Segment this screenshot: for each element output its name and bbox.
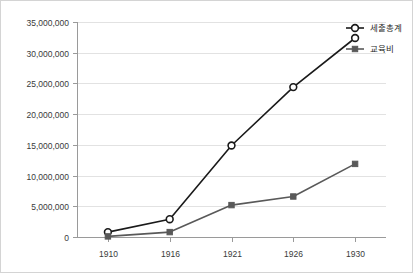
y-axis-tick-label: 30,000,000: [26, 49, 69, 59]
legend-circle-marker-icon: [352, 25, 359, 32]
data-point-marker: [167, 229, 172, 234]
data-point-marker: [291, 194, 296, 199]
data-series-group: [105, 35, 359, 240]
y-axis-tick-label: 0: [64, 233, 69, 243]
y-tick-marks-group: [73, 23, 77, 238]
data-point-marker: [105, 234, 110, 239]
legend-item[interactable]: 세출총계: [346, 23, 402, 33]
legend-square-marker-icon: [352, 46, 357, 51]
y-axis-tick-label: 5,000,000: [31, 202, 69, 212]
data-point-marker: [290, 84, 297, 91]
legend-label: 교육비: [370, 44, 394, 54]
y-axis-tick-label: 15,000,000: [26, 141, 69, 151]
y-axis-tick-label: 20,000,000: [26, 110, 69, 120]
line-chart-plot: 05,000,00010,000,00015,000,00020,000,000…: [1, 1, 413, 273]
data-point-marker: [229, 202, 234, 207]
y-axis-tick-label: 25,000,000: [26, 79, 69, 89]
y-axis-tick-labels: 05,000,00010,000,00015,000,00020,000,000…: [26, 18, 69, 243]
series-2: [105, 161, 358, 239]
x-axis-tick-label: 1926: [284, 249, 303, 259]
x-axis-tick-labels: 19101916192119261930: [99, 249, 365, 259]
x-axis-tick-label: 1916: [161, 249, 180, 259]
x-tick-marks-group: [109, 238, 356, 242]
y-axis-tick-label: 35,000,000: [26, 18, 69, 28]
y-axis-tick-label: 10,000,000: [26, 172, 69, 182]
chart-container: 05,000,00010,000,00015,000,00020,000,000…: [0, 0, 413, 273]
legend-label: 세출총계: [370, 23, 402, 33]
x-axis-tick-label: 1921: [223, 249, 242, 259]
data-point-marker: [166, 216, 173, 223]
data-point-marker: [352, 35, 359, 42]
x-axis-tick-label: 1930: [346, 249, 365, 259]
data-point-marker: [228, 142, 235, 149]
x-axis-tick-label: 1910: [99, 249, 118, 259]
series-line: [108, 164, 355, 237]
legend-item[interactable]: 교육비: [346, 44, 394, 54]
data-point-marker: [352, 161, 357, 166]
